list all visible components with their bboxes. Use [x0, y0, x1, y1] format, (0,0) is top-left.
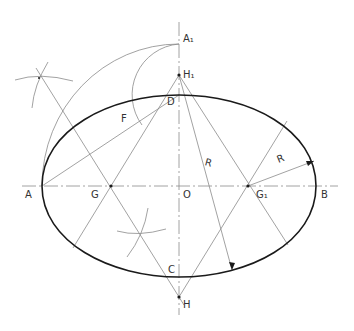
label-h1: H₁ — [183, 70, 195, 80]
label-d: D — [167, 97, 175, 107]
label-a1: A₁ — [183, 34, 194, 44]
label-a: A — [25, 190, 32, 200]
label-g1: G₁ — [256, 190, 268, 200]
label-h: H — [183, 300, 191, 310]
point-h1 — [177, 73, 180, 76]
radius-arrowhead-bottom — [229, 262, 235, 270]
point-g1 — [246, 184, 249, 187]
line-h1-g — [73, 75, 179, 248]
construction-arc-bottom-2 — [127, 208, 148, 257]
radius-g1 — [248, 161, 314, 186]
arc-a-a1 — [42, 44, 179, 186]
point-bisector-top — [38, 77, 40, 79]
construction-arc-top-2 — [32, 62, 48, 108]
label-g: G — [91, 190, 99, 200]
label-b: B — [321, 190, 328, 200]
line-h1-radius — [179, 75, 232, 270]
point-g — [109, 184, 112, 187]
label-f: F — [121, 114, 127, 124]
line-h1-g1 — [179, 75, 288, 245]
diagram-canvas — [0, 0, 354, 331]
label-c: C — [168, 265, 175, 275]
label-o: O — [183, 190, 191, 200]
point-h — [177, 295, 180, 298]
ellipse-construction-diagram: A B O G G₁ C D A₁ H₁ H F R R — [0, 0, 354, 331]
